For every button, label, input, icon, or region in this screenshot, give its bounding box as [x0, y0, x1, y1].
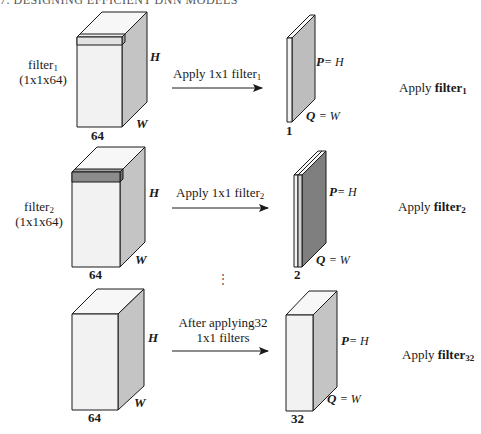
caption-2: Apply filter2	[398, 200, 466, 215]
output2-p-label: P= H	[329, 185, 357, 200]
caption-1: Apply filter1	[399, 81, 467, 96]
output3-q-label: Q = W	[327, 392, 361, 407]
arrow-text-line1: After applying32	[178, 315, 267, 330]
p-equals: = H	[349, 334, 369, 348]
p-symbol: P	[329, 184, 337, 199]
arrow3-label: After applying32 1x1 filters	[168, 316, 278, 346]
output-volume-2	[294, 151, 326, 267]
output3-depth-label: 32	[291, 412, 304, 427]
filter2-label: filter2 (1x1x64)	[8, 200, 70, 230]
arrow2-label: Apply 1x1 filter2	[176, 186, 264, 201]
input2-height-label: H	[149, 186, 159, 201]
cuboid-front-face	[77, 37, 122, 127]
filter1-slab-front	[77, 37, 122, 45]
output2-q-label: Q = W	[316, 253, 350, 268]
input3-height-label: H	[148, 331, 158, 346]
arrow-text: Apply 1x1 filter	[176, 185, 260, 200]
p-symbol: P	[341, 333, 349, 348]
p-equals: = H	[324, 55, 344, 69]
caption-subscript: 2	[461, 205, 466, 215]
input-volume-1	[77, 12, 147, 127]
input1-height-label: H	[150, 50, 160, 65]
arrow1-label: Apply 1x1 filter1	[173, 67, 261, 82]
caption-bold: filter	[434, 199, 461, 214]
caption-3: Apply filter32	[402, 348, 474, 363]
output-volume-1	[287, 15, 315, 122]
filter-dims: (1x1x64)	[15, 214, 63, 229]
caption-subscript: 32	[465, 353, 474, 363]
caption-prefix: Apply	[398, 199, 434, 214]
filter-dims: (1x1x64)	[19, 72, 67, 87]
caption-prefix: Apply	[399, 80, 435, 95]
filter1-label: filter1 (1x1x64)	[12, 58, 74, 88]
caption-bold: filter	[438, 347, 465, 362]
output1-depth-label: 1	[286, 124, 293, 139]
input3-width-label: W	[134, 396, 146, 411]
output2-depth-label: 2	[294, 268, 301, 283]
input1-depth-label: 64	[91, 129, 104, 144]
output1-q-label: Q = W	[306, 109, 340, 124]
p-equals: = H	[337, 185, 357, 199]
vertical-ellipsis: ⋮	[217, 273, 229, 287]
q-symbol: Q	[306, 108, 315, 123]
q-symbol: Q	[316, 252, 325, 267]
p-symbol: P	[316, 54, 324, 69]
filter-name: filter	[28, 57, 53, 72]
caption-bold: filter	[435, 80, 462, 95]
arrow-text-line2: 1x1 filters	[196, 330, 249, 345]
arrow-subscript: 2	[260, 191, 265, 201]
arrow-text: Apply 1x1 filter	[173, 66, 257, 81]
output3-p-label: P= H	[341, 334, 369, 349]
caption-prefix: Apply	[402, 347, 438, 362]
input1-width-label: W	[136, 117, 148, 132]
input3-depth-label: 64	[88, 411, 101, 426]
q-symbol: Q	[327, 391, 336, 406]
caption-subscript: 1	[462, 86, 467, 96]
input-volume-2	[72, 147, 145, 267]
input-volume-3	[72, 289, 144, 410]
arrow-subscript: 1	[257, 72, 262, 82]
filter-name: filter	[24, 199, 49, 214]
input2-depth-label: 64	[89, 268, 102, 283]
input2-width-label: W	[135, 253, 147, 268]
q-equals: = W	[340, 392, 361, 406]
output1-p-label: P= H	[316, 55, 344, 70]
q-equals: = W	[319, 109, 340, 123]
q-equals: = W	[329, 253, 350, 267]
